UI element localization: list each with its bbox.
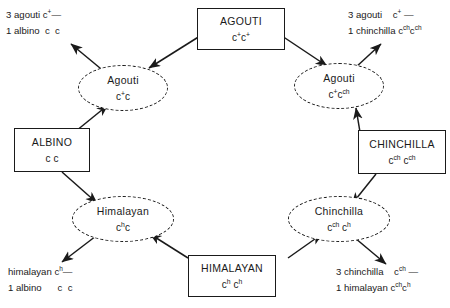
albino-parent-genotype: c c [46, 153, 59, 164]
agouti-albino-f1-label: Agouti [107, 74, 139, 86]
chinchilla-parent-box: CHINCHILLA cch cch [358, 130, 446, 174]
ratio-bottom-right-line-2: 1 himalayan cchch [336, 280, 418, 296]
chinchilla-himalayan-f1-genotype: cch ch [327, 222, 351, 233]
himalayan-parent-genotype: ch ch [222, 279, 242, 290]
ratio-bottom-right: 3 chinchilla cch — 1 himalayan cchch [336, 264, 418, 296]
albino-parent-box: ALBINO c c [14, 128, 90, 172]
agouti-parent-box: AGOUTI c+c+ [197, 8, 285, 50]
agouti-albino-f1-ellipse: Agouti c+c [78, 65, 168, 111]
arrow-himalayan-albino-f1-to-ratio [62, 236, 96, 262]
arrow-agouti-to-agouti-albino-f1 [149, 36, 200, 68]
ratio-bottom-right-line-1: 3 chinchilla cch — [336, 264, 418, 280]
himalayan-parent-label: HIMALAYAN [201, 262, 263, 274]
agouti-parent-label: AGOUTI [220, 15, 262, 27]
himalayan-parent-box: HIMALAYAN ch ch [188, 255, 276, 297]
ratio-top-left-line-1: 3 agouti c+— [6, 7, 61, 23]
genetics-cross-diagram: AGOUTI c+c+ ALBINO c c CHINCHILLA cch cc… [0, 0, 450, 308]
arrow-albino-to-himalayan-albino-f1 [62, 172, 97, 203]
agouti-chinchilla-f1-ellipse: Agouti c+cch [294, 63, 384, 109]
arrow-agouti-to-agouti-chinchilla-f1 [282, 36, 327, 66]
ratio-top-left: 3 agouti c+— 1 albino c c [6, 7, 61, 39]
agouti-chinchilla-f1-genotype: c+cch [328, 89, 349, 100]
agouti-albino-f1-genotype: c+c [116, 91, 130, 102]
arrow-chinchilla-himalayan-f1-to-ratio [355, 238, 386, 264]
chinchilla-himalayan-f1-label: Chinchilla [315, 205, 364, 217]
ratio-top-right-line-1: 3 agouti c+ — [348, 7, 422, 23]
ratio-top-right-line-2: 1 chinchilla cchcch [348, 23, 422, 39]
ratio-top-right: 3 agouti c+ — 1 chinchilla cchcch [348, 7, 422, 39]
agouti-parent-genotype: c+c+ [232, 32, 250, 43]
ratio-top-left-line-2: 1 albino c c [6, 23, 61, 39]
arrow-himalayan-to-himalayan-albino-f1 [150, 234, 188, 258]
himalayan-albino-f1-label: Himalayan [97, 205, 149, 217]
agouti-chinchilla-f1-label: Agouti [323, 72, 355, 84]
chinchilla-himalayan-f1-ellipse: Chinchilla cch ch [288, 196, 390, 242]
himalayan-albino-f1-ellipse: Himalayan chc [72, 196, 174, 242]
arrow-chinchilla-to-agouti-chinchilla-f1 [356, 108, 360, 132]
ratio-bottom-left-line-1: himalayan ch— [8, 264, 73, 280]
chinchilla-parent-label: CHINCHILLA [369, 138, 434, 150]
chinchilla-parent-genotype: cch cch [388, 155, 415, 166]
albino-parent-label: ALBINO [32, 136, 72, 148]
ratio-bottom-left: himalayan ch— 1 albino c c [8, 264, 73, 296]
himalayan-albino-f1-genotype: chc [116, 222, 130, 233]
ratio-bottom-left-line-2: 1 albino c c [8, 280, 73, 296]
